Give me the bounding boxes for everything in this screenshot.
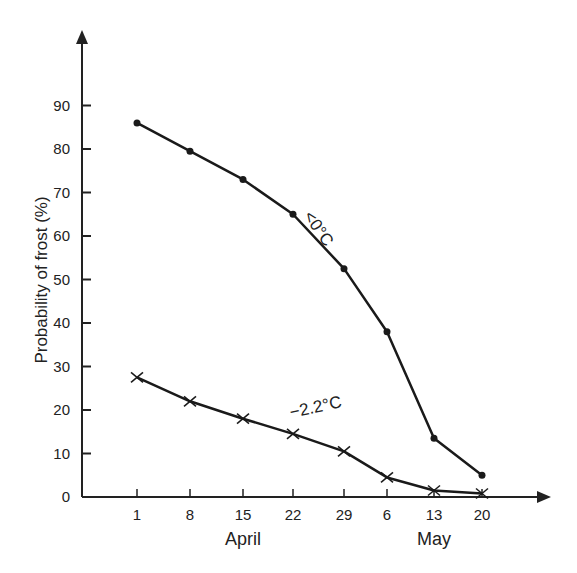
dot-marker-icon	[187, 148, 194, 155]
y-tick-label: 50	[53, 271, 70, 288]
x-tick-label: 29	[336, 506, 353, 523]
y-tick-label: 80	[53, 140, 70, 157]
y-tick-label: 70	[53, 184, 70, 201]
dot-marker-icon	[134, 119, 141, 126]
dot-marker-icon	[431, 435, 438, 442]
x-marker-icon	[338, 446, 350, 456]
x-tick-label: 15	[235, 506, 252, 523]
y-ticks: 0102030405060708090	[53, 97, 91, 506]
x-tick-label: 1	[133, 506, 141, 523]
dot-marker-icon	[290, 211, 297, 218]
dot-marker-icon	[479, 472, 486, 479]
x-tick-label: 22	[285, 506, 302, 523]
x-tick-label: 6	[383, 506, 391, 523]
month-label: May	[417, 529, 451, 549]
x-tick-label: 13	[426, 506, 443, 523]
y-tick-label: 10	[53, 445, 70, 462]
y-axis-arrow-icon	[76, 30, 88, 44]
x-axis-arrow-icon	[537, 491, 551, 503]
series-line	[137, 123, 482, 475]
series-lines	[131, 119, 488, 498]
y-tick-label: 20	[53, 401, 70, 418]
x-ticks: 1815222961320	[133, 489, 491, 523]
dot-marker-icon	[240, 176, 247, 183]
y-axis-label: Probability of frost (%)	[32, 196, 51, 363]
dot-marker-icon	[384, 328, 391, 335]
y-tick-label: 60	[53, 227, 70, 244]
x-tick-label: 20	[474, 506, 491, 523]
y-tick-label: 90	[53, 97, 70, 114]
y-tick-label: 0	[62, 488, 70, 505]
month-label: April	[225, 529, 261, 549]
dot-marker-icon	[341, 265, 348, 272]
y-tick-label: 40	[53, 314, 70, 331]
series-label-minus-2-2c: −2.2°C	[288, 392, 343, 422]
frost-probability-chart: 0102030405060708090 1815222961320 AprilM…	[0, 0, 577, 573]
month-labels: AprilMay	[225, 529, 451, 549]
x-marker-icon	[131, 372, 143, 382]
x-tick-label: 8	[186, 506, 194, 523]
x-marker-icon	[184, 396, 196, 406]
y-tick-label: 30	[53, 358, 70, 375]
series-line	[137, 377, 482, 493]
